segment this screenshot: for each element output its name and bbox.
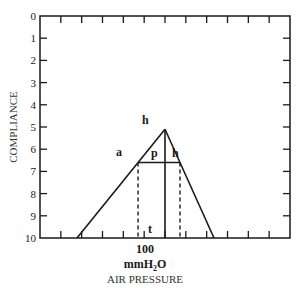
y-tick-label: 1 — [31, 32, 37, 44]
y-tick-label: 3 — [31, 77, 37, 89]
right-axis-ticks — [283, 38, 290, 216]
y-tick-label: 9 — [31, 210, 37, 222]
y-tick-label: 5 — [31, 121, 37, 133]
y-tick-label: 2 — [31, 54, 37, 66]
left-point-label: a — [116, 145, 122, 159]
mid-point-label: p — [151, 146, 158, 160]
top-axis-ticks — [61, 16, 269, 23]
x-unit-label: mmH2O — [124, 257, 167, 273]
y-tick-label: 0 — [31, 10, 37, 22]
bottom-point-label: t — [148, 222, 152, 236]
y-tick-label: 6 — [31, 143, 37, 155]
y-tick-label: 10 — [25, 232, 37, 244]
y-tick-label: 7 — [31, 165, 37, 177]
x-axis-title: AIR PRESSURE — [107, 273, 183, 285]
right-point-label: h — [172, 146, 179, 160]
y-axis-title: COMPLIANCE — [7, 91, 19, 163]
y-axis-ticks — [40, 38, 47, 216]
y-tick-label: 4 — [31, 99, 37, 111]
y-tick-label: 8 — [31, 188, 37, 200]
apex-label: h — [142, 113, 149, 127]
y-axis-labels: 012345678910 — [25, 10, 37, 244]
compliance-diagram: 012345678910 h a p h t 100 mmH2O AIR PRE… — [0, 0, 300, 288]
x-center-value: 100 — [136, 242, 154, 256]
